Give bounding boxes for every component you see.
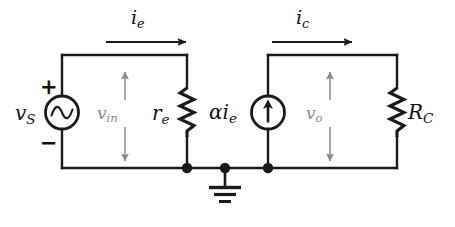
label-collector-current: ic: [296, 8, 309, 31]
label-source-voltage: vS: [15, 103, 36, 126]
junction-dot-emitter-node: [182, 163, 192, 173]
output-loop-wires: [268, 55, 397, 168]
dependent-current-source-symbol: [252, 96, 285, 129]
label-dependent-source: αie: [209, 102, 237, 125]
label-emitter-resistor: re: [152, 103, 170, 126]
label-collector-resistor: RC: [408, 102, 433, 125]
label-emitter-current: ie: [131, 8, 145, 31]
label-output-voltage: vo: [306, 105, 323, 125]
junction-dot-collector-node: [263, 163, 273, 173]
resistor-re-symbol: [180, 88, 194, 137]
resistor-re-zigzag: [180, 88, 194, 137]
label-input-voltage: vin: [97, 105, 118, 125]
source-plus-terminal-sign: +: [40, 77, 58, 98]
ac-voltage-source-vs: [46, 96, 79, 129]
resistor-rc-symbol: [390, 88, 404, 137]
circuit-diagram: ie ic vS + − vin re αie vo RC: [0, 0, 455, 227]
resistor-rc-zigzag: [390, 88, 404, 137]
ground-symbol: [209, 168, 241, 202]
source-minus-terminal-sign: −: [40, 133, 58, 154]
